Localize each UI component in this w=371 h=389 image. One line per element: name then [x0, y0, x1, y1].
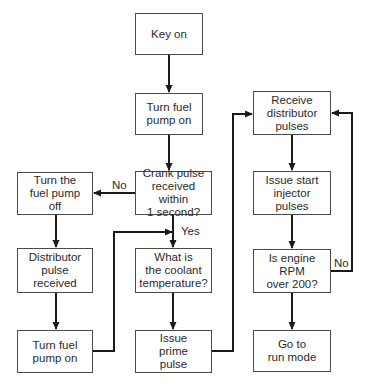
node-distributor-pulse-received: Distributor pulse received [17, 248, 93, 293]
edge-label-crank-no: No [112, 179, 127, 192]
node-coolant-temperature-decision: What is the coolant temperature? [135, 248, 212, 293]
node-key-on: Key on [135, 13, 203, 55]
arrow-prime-to-receive [212, 114, 252, 351]
node-crank-pulse-decision: Crank pulse received within 1 second? [135, 171, 212, 215]
node-turn-fuel-pump-off: Turn the fuel pump off [17, 172, 93, 215]
arrow-rpm-no-loop [331, 113, 352, 271]
node-issue-prime-pulse: Issue prime pulse [135, 330, 212, 373]
edge-label-rpm-no: No [334, 257, 349, 270]
node-engine-rpm-decision: Is engine RPM over 200? [253, 249, 331, 293]
edge-label-crank-yes: Yes [181, 225, 200, 238]
node-issue-start-injector-pulses: Issue start injector pulses [253, 171, 331, 215]
node-turn-fuel-pump-on-top: Turn fuel pump on [135, 93, 203, 135]
node-turn-fuel-pump-on-left: Turn fuel pump on [17, 330, 93, 373]
node-go-to-run-mode: Go to run mode [253, 330, 331, 372]
node-receive-distributor-pulses: Receive distributor pulses [253, 91, 331, 135]
